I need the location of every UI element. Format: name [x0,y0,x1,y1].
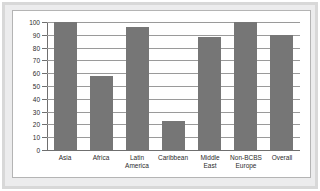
bar-chart: 0102030405060708090100 AsiaAfricaLatin A… [13,11,312,179]
y-axis-label-40: 40 [14,96,40,103]
y-axis-label-70: 70 [14,57,40,64]
y-axis-label-10: 10 [14,134,40,141]
bar [162,121,185,150]
x-axis-label: Non-BCBS Europe [228,154,264,170]
y-axis-label-100: 100 [14,19,40,26]
figure-frame: 0102030405060708090100 AsiaAfricaLatin A… [0,0,320,191]
chart-container: 0102030405060708090100 AsiaAfricaLatin A… [12,10,311,178]
bar [270,35,293,150]
x-axis-label: Middle East [192,154,228,170]
gridline-0 [47,150,300,151]
x-axis-label: Caribbean [155,154,191,162]
x-axis-category-labels: AsiaAfricaLatin AmericaCaribbeanMiddle E… [47,154,300,178]
x-axis-label: Overall [264,154,300,162]
bar [54,22,77,150]
bar-series [47,22,300,150]
bar [126,27,149,150]
y-axis-tick-labels: 0102030405060708090100 [13,11,40,179]
bar [90,76,113,150]
y-axis-label-60: 60 [14,70,40,77]
y-axis-label-50: 50 [14,83,40,90]
y-axis-label-80: 80 [14,45,40,52]
y-axis-label-20: 20 [14,121,40,128]
x-axis-label: Asia [47,154,83,162]
y-axis-label-30: 30 [14,109,40,116]
x-axis-label: Latin America [119,154,155,170]
bar [234,22,257,150]
y-axis-label-90: 90 [14,32,40,39]
y-axis-label-0: 0 [14,147,40,154]
bar [198,37,221,150]
x-axis-label: Africa [83,154,119,162]
